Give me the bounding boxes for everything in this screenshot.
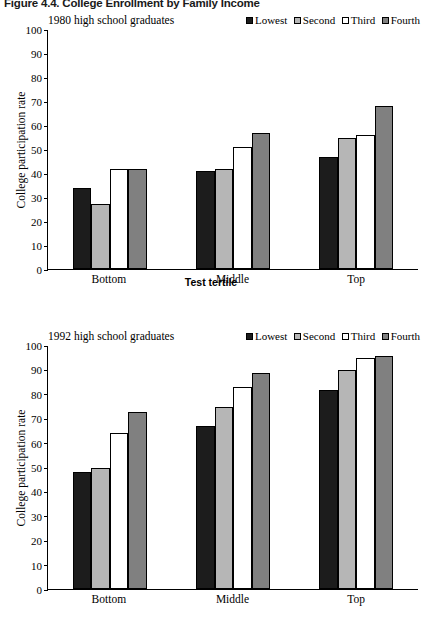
legend-swatch-icon	[246, 333, 253, 340]
bar	[196, 426, 215, 589]
x-tick-labels: BottomMiddleTop	[47, 590, 418, 608]
legend-item: Fourth	[382, 330, 420, 342]
bar	[375, 106, 394, 269]
legend-swatch-icon	[294, 17, 301, 24]
bar	[375, 356, 394, 589]
y-tick-label: 60	[22, 438, 42, 450]
y-tick-mark	[44, 541, 48, 542]
x-tick-label: Middle	[216, 593, 249, 605]
bar	[338, 138, 357, 269]
bar	[91, 204, 110, 269]
y-axis-tick: 70	[22, 413, 47, 425]
y-tick-label: 80	[22, 389, 42, 401]
y-tick-label: 20	[22, 535, 42, 547]
legend-label: Second	[303, 330, 335, 342]
bar	[73, 472, 92, 589]
legend-swatch-icon	[246, 17, 253, 24]
y-axis-tick: 60	[22, 438, 47, 450]
y-tick-label: 80	[22, 72, 42, 84]
legend-item: Second	[294, 14, 335, 26]
y-tick-label: 90	[22, 364, 42, 376]
y-axis-tick: 50	[22, 462, 47, 474]
chart-legend: LowestSecondThirdFourth	[246, 330, 420, 342]
y-tick-label: 40	[22, 168, 42, 180]
y-tick-mark	[44, 174, 48, 175]
y-axis-tick: 100	[22, 24, 47, 36]
y-tick-mark	[44, 54, 48, 55]
y-tick-label: 30	[22, 192, 42, 204]
y-axis-tick: 60	[22, 120, 47, 132]
legend-item: Third	[342, 330, 375, 342]
y-tick-label: 70	[22, 96, 42, 108]
x-tick-label: Bottom	[92, 593, 127, 605]
bar	[356, 135, 375, 269]
legend-label: Lowest	[255, 330, 287, 342]
bar	[215, 169, 234, 269]
y-tick-mark	[44, 492, 48, 493]
y-tick-label: 20	[22, 216, 42, 228]
bars-layer	[48, 30, 418, 269]
y-tick-label: 50	[22, 462, 42, 474]
axis-area: 0102030405060708090100	[47, 346, 418, 590]
legend-label: Third	[351, 14, 375, 26]
y-tick-label: 50	[22, 144, 42, 156]
legend-label: Fourth	[391, 14, 420, 26]
bar	[233, 387, 252, 589]
y-tick-mark	[44, 346, 48, 347]
y-axis-tick: 50	[22, 144, 47, 156]
y-tick-label: 100	[22, 340, 42, 352]
y-axis-tick: 90	[22, 364, 47, 376]
legend-item: Lowest	[246, 330, 287, 342]
y-axis-tick: 0	[22, 264, 47, 276]
y-tick-label: 10	[22, 240, 42, 252]
y-tick-mark	[44, 102, 48, 103]
y-tick-mark	[44, 394, 48, 395]
y-tick-label: 30	[22, 511, 42, 523]
bar	[110, 433, 129, 589]
bar	[319, 390, 338, 589]
y-axis-tick: 30	[22, 511, 47, 523]
bar	[356, 358, 375, 589]
y-tick-label: 10	[22, 560, 42, 572]
bar	[128, 412, 147, 589]
y-tick-label: 0	[22, 264, 42, 276]
legend-item: Third	[342, 14, 375, 26]
y-axis-tick: 90	[22, 48, 47, 60]
legend-label: Third	[351, 330, 375, 342]
panel-subtitle: 1980 high school graduates	[48, 14, 174, 26]
y-tick-mark	[44, 222, 48, 223]
legend-item: Second	[294, 330, 335, 342]
y-tick-mark	[44, 516, 48, 517]
y-axis-tick: 10	[22, 560, 47, 572]
x-axis-label: Test tertile	[0, 276, 422, 288]
y-tick-mark	[44, 150, 48, 151]
y-axis-tick: 80	[22, 389, 47, 401]
y-tick-mark	[44, 419, 48, 420]
chart-panel-1992: 1992 high school graduates LowestSecondT…	[0, 330, 422, 626]
y-tick-mark	[44, 198, 48, 199]
figure-title: Figure 4.4. College Enrollment by Family…	[4, 0, 260, 9]
legend-label: Lowest	[255, 14, 287, 26]
bar	[128, 169, 147, 269]
panel-subtitle: 1992 high school graduates	[48, 330, 174, 342]
y-tick-label: 40	[22, 486, 42, 498]
y-tick-label: 90	[22, 48, 42, 60]
bar	[110, 169, 129, 269]
bar	[233, 147, 252, 269]
y-tick-label: 60	[22, 120, 42, 132]
bar	[91, 468, 110, 590]
legend-label: Fourth	[391, 330, 420, 342]
y-tick-mark	[44, 370, 48, 371]
panel-header: 1980 high school graduates LowestSecondT…	[0, 14, 422, 29]
y-axis-tick: 20	[22, 535, 47, 547]
y-tick-mark	[44, 565, 48, 566]
legend-swatch-icon	[382, 17, 389, 24]
bar	[252, 133, 271, 269]
axis-area: 0102030405060708090100	[47, 30, 418, 270]
bar	[252, 373, 271, 589]
y-axis-tick: 10	[22, 240, 47, 252]
y-axis-tick: 0	[22, 584, 47, 596]
legend-swatch-icon	[342, 17, 349, 24]
legend-item: Fourth	[382, 14, 420, 26]
panel-header: 1992 high school graduates LowestSecondT…	[0, 330, 422, 345]
